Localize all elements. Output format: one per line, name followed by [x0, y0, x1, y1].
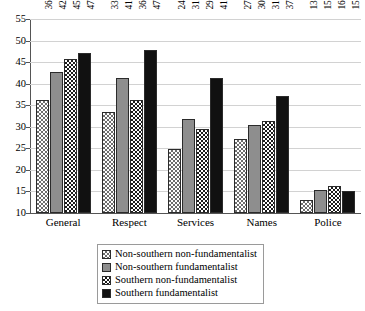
bar-groups: 36.142.845.747.133.541.436.347.724.831.8… — [30, 19, 361, 213]
bar[interactable] — [64, 59, 77, 213]
bar-value-label: 15.3 — [311, 10, 321, 26]
bar-wrapper: 24.8 — [168, 19, 181, 213]
legend-item-label: Southern fundamentalist — [115, 288, 218, 299]
legend-swatch-icon — [102, 250, 111, 259]
bar-wrapper: 27.1 — [234, 19, 247, 213]
bar-value-label: 41.4 — [113, 10, 123, 26]
x-category-label-general: General — [30, 216, 96, 228]
bar-group-bars: 27.130.531.337.2 — [229, 19, 295, 213]
bar[interactable] — [314, 190, 327, 213]
bar-group-bars: 24.831.829.541.3 — [162, 19, 228, 213]
bar-value-label: 24.8 — [165, 10, 175, 26]
bar-group: 27.130.531.337.2 — [229, 19, 295, 213]
y-tick-label: 45 — [16, 57, 27, 68]
y-tick-label: 25 — [16, 143, 27, 154]
bar[interactable] — [182, 119, 195, 213]
bar-group-bars: 36.142.845.747.1 — [30, 19, 96, 213]
legend-item[interactable]: Southern non-fundamentalist — [102, 274, 257, 287]
bar-wrapper: 15.3 — [314, 19, 327, 213]
bar-value-label: 37.2 — [273, 10, 283, 26]
y-tick-label: 50 — [16, 35, 27, 46]
bar-wrapper: 36.1 — [36, 19, 49, 213]
bar-value-label: 45.7 — [61, 10, 71, 26]
bar[interactable] — [50, 72, 63, 213]
bar-value-label: 33.5 — [99, 10, 109, 26]
bar-wrapper: 45.7 — [64, 19, 77, 213]
legend-item[interactable]: Non-southern non-fundamentalist — [102, 248, 257, 261]
bar-wrapper: 16.2 — [328, 19, 341, 213]
bar[interactable] — [262, 121, 275, 213]
bar-group-bars: 13.015.316.215.2 — [295, 19, 361, 213]
bar-group: 13.015.316.215.2 — [295, 19, 361, 213]
bar-wrapper: 13.0 — [300, 19, 313, 213]
bar-chart: 55504540353025201510 36.142.845.747.133.… — [0, 0, 365, 311]
y-axis-tick-labels: 55504540353025201510 — [0, 19, 26, 213]
bar-value-label: 47.1 — [75, 10, 85, 26]
legend-item[interactable]: Non-southern fundamentalist — [102, 261, 257, 274]
bar[interactable] — [248, 125, 261, 213]
y-tick-label: 20 — [16, 165, 27, 176]
bar-group: 24.831.829.541.3 — [162, 19, 228, 213]
bar-wrapper: 31.3 — [262, 19, 275, 213]
bar-wrapper: 47.1 — [78, 19, 91, 213]
legend: Non-southern non-fundamentalistNon-south… — [97, 244, 264, 304]
bar-value-label: 41.3 — [207, 10, 217, 26]
x-category-label-names: Names — [229, 216, 295, 228]
bar-value-label: 30.5 — [245, 10, 255, 26]
y-tick-label: 55 — [16, 14, 27, 25]
axis-baseline — [30, 213, 361, 214]
bar[interactable] — [210, 78, 223, 213]
bar-wrapper: 37.2 — [276, 19, 289, 213]
bar-value-label: 47.7 — [141, 10, 151, 26]
legend-item-label: Southern non-fundamentalist — [115, 275, 237, 286]
bar-value-label: 15.2 — [339, 10, 349, 26]
bar[interactable] — [130, 100, 143, 213]
bar-value-label: 36.1 — [33, 10, 43, 26]
bar-value-label: 16.2 — [325, 10, 335, 26]
y-tick-label: 15 — [16, 186, 27, 197]
bar-group-bars: 33.541.436.347.7 — [96, 19, 162, 213]
bar-value-label: 31.3 — [259, 10, 269, 26]
y-tick-label: 35 — [16, 100, 27, 111]
bar-wrapper: 31.8 — [182, 19, 195, 213]
bar-value-label: 13.0 — [297, 10, 307, 26]
plot-area: 36.142.845.747.133.541.436.347.724.831.8… — [30, 19, 361, 213]
bar-wrapper: 41.4 — [116, 19, 129, 213]
bar[interactable] — [116, 78, 129, 213]
bar[interactable] — [102, 112, 115, 213]
legend-swatch-icon — [102, 276, 111, 285]
bar[interactable] — [168, 149, 181, 213]
bar[interactable] — [276, 96, 289, 213]
bar[interactable] — [144, 50, 157, 213]
y-tick-label: 30 — [16, 122, 27, 133]
x-category-label-respect: Respect — [96, 216, 162, 228]
bar[interactable] — [196, 129, 209, 213]
bar-wrapper: 30.5 — [248, 19, 261, 213]
bar-wrapper: 41.3 — [210, 19, 223, 213]
x-category-label-police: Police — [295, 216, 361, 228]
bar[interactable] — [328, 186, 341, 213]
y-tick-label: 40 — [16, 78, 27, 89]
legend-item[interactable]: Southern fundamentalist — [102, 287, 257, 300]
bar-wrapper: 15.2 — [342, 19, 355, 213]
x-category-label-services: Services — [162, 216, 228, 228]
bar-wrapper: 42.8 — [50, 19, 63, 213]
legend-swatch-icon — [102, 289, 111, 298]
legend-item-label: Non-southern fundamentalist — [115, 262, 238, 273]
bar[interactable] — [36, 100, 49, 213]
bar-value-label: 31.8 — [179, 10, 189, 26]
bar-group: 33.541.436.347.7 — [96, 19, 162, 213]
bar[interactable] — [234, 139, 247, 213]
bar-group: 36.142.845.747.1 — [30, 19, 96, 213]
y-tick-label: 10 — [16, 208, 27, 219]
bar[interactable] — [78, 53, 91, 213]
bar[interactable] — [300, 200, 313, 213]
bar-value-label: 42.8 — [47, 10, 57, 26]
bar-wrapper: 36.3 — [130, 19, 143, 213]
x-axis-category-labels: GeneralRespectServicesNamesPolice — [30, 216, 361, 228]
bar[interactable] — [342, 191, 355, 213]
bar-wrapper: 33.5 — [102, 19, 115, 213]
legend-item-label: Non-southern non-fundamentalist — [115, 249, 257, 260]
bar-wrapper: 47.7 — [144, 19, 157, 213]
bar-wrapper: 29.5 — [196, 19, 209, 213]
